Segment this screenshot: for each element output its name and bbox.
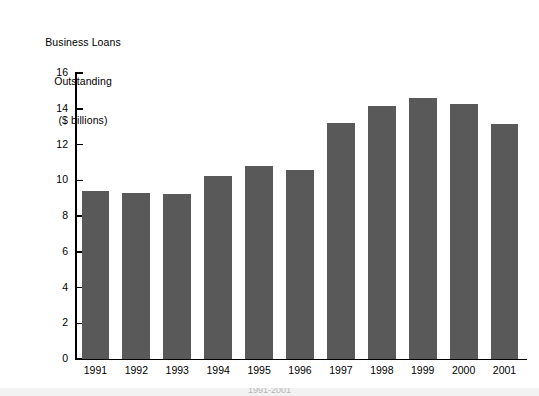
bar [163,194,191,359]
x-tick-label: 1995 [239,364,280,376]
bar [409,98,437,359]
bar [204,176,232,359]
x-tick-label: 1992 [116,364,157,376]
bottom-caption-strip: 1991-2001 [0,388,539,396]
x-tick-label: 1996 [280,364,321,376]
bar [286,170,314,359]
x-tick-label: 1991 [75,364,116,376]
bar [327,123,355,359]
x-tick-label: 1994 [198,364,239,376]
bar [245,166,273,359]
chart-figure: Business Loans Outstanding ($ billions) … [0,0,539,396]
x-tick-label: 2000 [443,364,484,376]
x-tick-label: 1997 [320,364,361,376]
bottom-caption-text: 1991-2001 [0,388,539,395]
bar [450,104,478,359]
x-tick-label: 1993 [157,364,198,376]
x-tick-label: 1998 [361,364,402,376]
x-tick-label: 2001 [484,364,525,376]
bar [491,124,519,359]
bars-layer [0,0,539,396]
bar [122,193,150,359]
x-tick-label: 1999 [402,364,443,376]
bar [82,191,110,359]
bar [368,106,396,359]
